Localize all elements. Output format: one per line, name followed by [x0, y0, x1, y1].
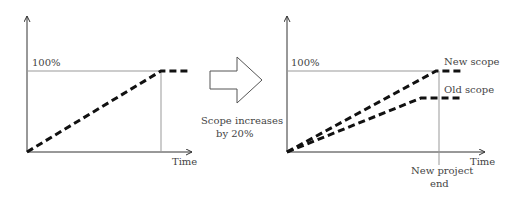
new-scope-line: [287, 71, 463, 152]
left-time-label: Time: [172, 156, 197, 167]
big-arrow-icon: [210, 57, 262, 103]
left-100-label: 100%: [32, 57, 61, 68]
right-time-label: Time: [470, 156, 495, 167]
old-scope-label: Old scope: [444, 84, 494, 95]
left-scope-line: [27, 71, 190, 152]
transition: Scope increases by 20%: [201, 57, 283, 139]
right-100-label: 100%: [291, 57, 320, 68]
scope-diagram: 100% Time Scope increases by 20% 100% Ne…: [0, 0, 517, 201]
end-label-line1: New project: [411, 165, 473, 176]
right-chart: 100% New scope Old scope Time New projec…: [287, 16, 500, 189]
new-scope-label: New scope: [444, 56, 500, 67]
left-chart: 100% Time: [27, 16, 197, 167]
end-label-line2: end: [430, 178, 449, 189]
old-scope-line: [287, 98, 463, 152]
caption-line1: Scope increases: [201, 115, 283, 126]
caption-line2: by 20%: [216, 128, 253, 139]
